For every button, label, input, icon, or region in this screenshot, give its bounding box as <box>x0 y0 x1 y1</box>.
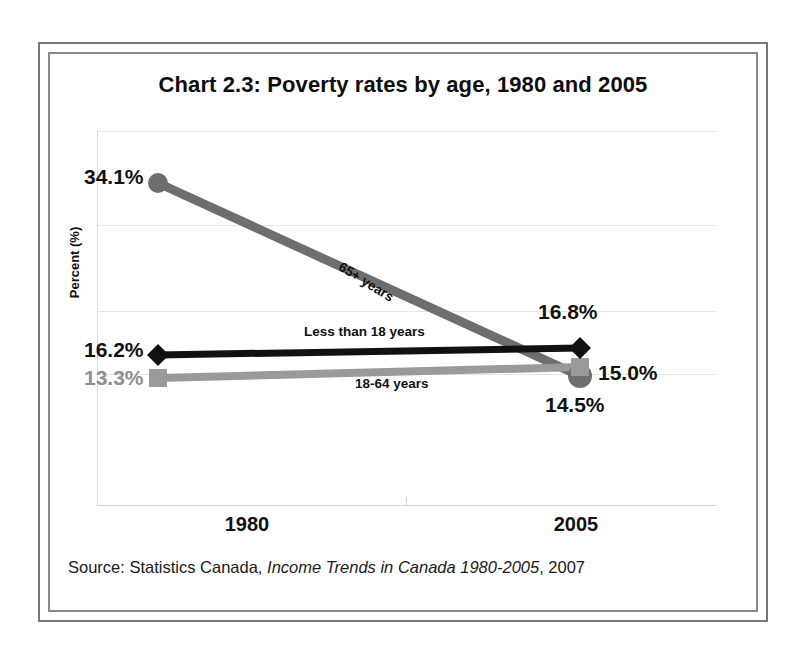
marker-under18-1980 <box>147 344 169 366</box>
series-label-under18: Less than 18 years <box>304 324 425 339</box>
marker-18to64-2005 <box>571 358 589 376</box>
series-plot <box>98 131 716 506</box>
value-label-under18-2005: 16.8% <box>538 300 598 324</box>
line-under18 <box>158 348 580 355</box>
value-label-18to64-2005: 14.5% <box>545 393 605 417</box>
chart-page: Chart 2.3: Poverty rates by age, 1980 an… <box>0 0 808 662</box>
marker-65plus-1980 <box>148 173 168 193</box>
x-tick-label-2005: 2005 <box>516 513 636 536</box>
source-agency: Statistics Canada, <box>129 558 262 576</box>
y-axis-title: Percent (%) <box>67 198 82 328</box>
marker-under18-2005 <box>569 337 591 359</box>
source-year: , 2007 <box>539 558 585 576</box>
source-prefix: Source: <box>68 558 125 576</box>
x-tick-label-1980: 1980 <box>187 513 307 536</box>
value-label-65plus-2005: 15.0% <box>598 361 658 385</box>
series-label-18to64: 18-64 years <box>355 376 429 391</box>
value-label-under18-1980: 16.2% <box>84 338 144 362</box>
source-publication: Income Trends in Canada 1980-2005 <box>267 558 539 576</box>
marker-18to64-1980 <box>149 369 167 387</box>
value-label-18to64-1980: 13.3% <box>84 366 144 390</box>
plot-area: 34.1% 16.2% 13.3% 16.8% 15.0% 14.5% 65+ … <box>97 131 716 506</box>
source-note: Source: Statistics Canada, Income Trends… <box>68 558 585 577</box>
chart-title: Chart 2.3: Poverty rates by age, 1980 an… <box>48 72 758 98</box>
value-label-65plus-1980: 34.1% <box>84 165 144 189</box>
